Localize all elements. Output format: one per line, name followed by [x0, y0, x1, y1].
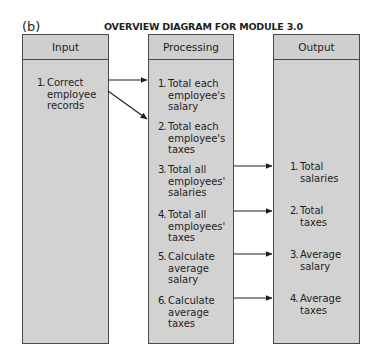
arrow-input1-to-processing2 [108, 91, 147, 119]
connector-arrows [0, 0, 377, 359]
